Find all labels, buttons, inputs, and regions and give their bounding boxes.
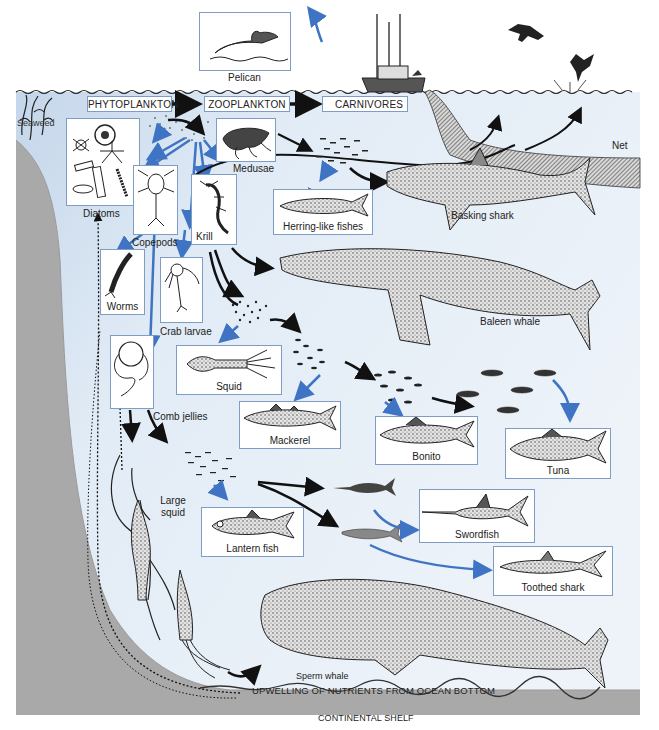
toothed-shark-box: Toothed shark	[493, 546, 613, 596]
swordfish-label: Swordfish	[420, 529, 534, 540]
seaweed-label: Seaweed	[17, 118, 55, 128]
crab-larvae-icon	[161, 258, 202, 322]
baleen-whale-label: Baleen whale	[480, 316, 540, 327]
tuna-label: Tuna	[506, 465, 610, 476]
herring-icon	[274, 190, 372, 220]
medusae-label: Medusae	[233, 163, 274, 174]
swordfish-box: Swordfish	[419, 489, 535, 543]
diatoms-icon	[67, 119, 139, 205]
herring-label: Herring-like fishes	[274, 221, 372, 232]
diatoms-box	[66, 118, 140, 206]
pelican-box	[199, 12, 291, 71]
herring-box: Herring-like fishes	[273, 189, 373, 235]
copepods-box	[133, 165, 178, 235]
bonito-label: Bonito	[376, 451, 477, 462]
bonito-icon	[376, 417, 477, 450]
squid-icon	[177, 346, 281, 380]
squid-box: Squid	[176, 345, 282, 395]
worms-icon	[101, 250, 144, 300]
diatoms-label: Diatoms	[83, 208, 120, 219]
bonito-box: Bonito	[375, 416, 478, 465]
basking-shark-label: Basking shark	[451, 210, 514, 221]
trophic-level-phytoplankton: PHYTOPLANKTON	[87, 96, 172, 112]
pelican-icon	[200, 13, 290, 70]
squid-label: Squid	[177, 381, 281, 392]
mackerel-icon	[240, 402, 340, 434]
medusae-icon	[217, 119, 275, 161]
krill-box: Krill	[191, 174, 237, 245]
trophic-level-carnivores: CARNIVORES	[322, 96, 408, 112]
tuna-box: Tuna	[505, 428, 611, 479]
lantern-fish-icon	[202, 508, 303, 542]
toothed-shark-label: Toothed shark	[494, 582, 612, 593]
worms-label: Worms	[101, 301, 144, 312]
pelican-label: Pelican	[228, 72, 261, 83]
trophic-level-zooplankton: ZOOPLANKTON	[204, 96, 290, 112]
copepods-label: Copepods	[132, 237, 178, 248]
large-squid-label: Large squid	[158, 495, 188, 519]
tuna-icon	[506, 429, 610, 464]
swordfish-icon	[420, 490, 534, 528]
toothed-shark-icon	[494, 547, 612, 581]
krill-label: Krill	[196, 231, 236, 242]
fishing-boat-icon	[362, 14, 425, 92]
comb-jellies-label: Comb jellies	[153, 411, 207, 422]
net-label: Net	[612, 140, 628, 151]
comb-jellies-box	[110, 335, 154, 409]
marine-food-web-diagram: Pelican Seaweed PHYTOPLANKTON ZOOPLANKTO…	[0, 0, 659, 730]
sperm-whale-label: Sperm whale	[296, 671, 349, 681]
lantern-fish-label: Lantern fish	[202, 543, 303, 554]
lantern-fish-box: Lantern fish	[201, 507, 304, 557]
upwelling-label: UPWELLING OF NUTRIENTS FROM OCEAN BOTTOM	[252, 685, 495, 696]
continental-shelf-label: CONTINENTAL SHELF	[318, 713, 414, 723]
mackerel-label: Mackerel	[240, 435, 340, 446]
copepods-icon	[134, 166, 177, 234]
crab-larvae-box	[160, 257, 203, 323]
diving-birds-icon	[508, 24, 594, 92]
medusae-box	[216, 118, 276, 162]
worms-box: Worms	[100, 249, 145, 315]
comb-jellies-icon	[111, 336, 153, 408]
mackerel-box: Mackerel	[239, 401, 341, 449]
crab-larvae-label: Crab larvae	[160, 326, 212, 337]
